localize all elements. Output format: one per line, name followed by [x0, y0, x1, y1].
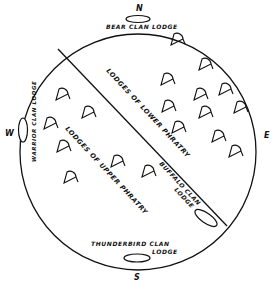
thunderbird-clan-label-line1: THUNDERBIRD CLAN: [91, 240, 170, 247]
compass-east: E: [264, 131, 270, 140]
compass-north: N: [136, 4, 143, 13]
lodge-icon: [194, 88, 208, 100]
lodge-icon: [56, 88, 70, 100]
buffalo-clan-label-line1: BUFFALO CLAN: [158, 160, 202, 207]
lodge-icon: [162, 100, 176, 112]
bear-clan-lodge-icon: [126, 16, 150, 23]
warrior-clan-label: WARRIOR CLAN LODGE: [31, 81, 37, 162]
lodge-icon: [212, 130, 226, 142]
village-circle: [20, 34, 256, 270]
lodge-icon: [57, 140, 71, 152]
lodge-icon: [172, 121, 186, 133]
lodge-icon: [229, 145, 243, 157]
lodge-icon: [64, 171, 78, 183]
thunderbird-clan-label-line2: LODGE: [152, 248, 178, 255]
upper-phratry-label: LODGES OF UPPER PHRATRY: [64, 125, 150, 217]
lower-phratry-label: LODGES OF LOWER PHRATRY: [105, 67, 193, 160]
lodge-icon: [82, 106, 96, 118]
compass-west: W: [5, 129, 15, 138]
compass-south: S: [134, 273, 140, 282]
lodge-icon: [44, 117, 58, 129]
warrior-clan-lodge-icon: [19, 118, 28, 142]
village-layout-diagram: N S E W BEAR CLAN LODGE WARRIOR CLAN LOD…: [0, 0, 275, 284]
lodge-icon: [161, 73, 175, 85]
lodge-icon: [111, 155, 125, 167]
buffalo-clan-lodge-icon: [192, 206, 219, 229]
thunderbird-clan-lodge-icon: [124, 254, 150, 262]
lodge-icon: [142, 165, 156, 177]
lodge-icon: [219, 83, 233, 95]
lodge-icon: [199, 106, 213, 118]
bear-clan-label: BEAR CLAN LODGE: [106, 23, 178, 30]
phratry-divider: [58, 49, 227, 226]
